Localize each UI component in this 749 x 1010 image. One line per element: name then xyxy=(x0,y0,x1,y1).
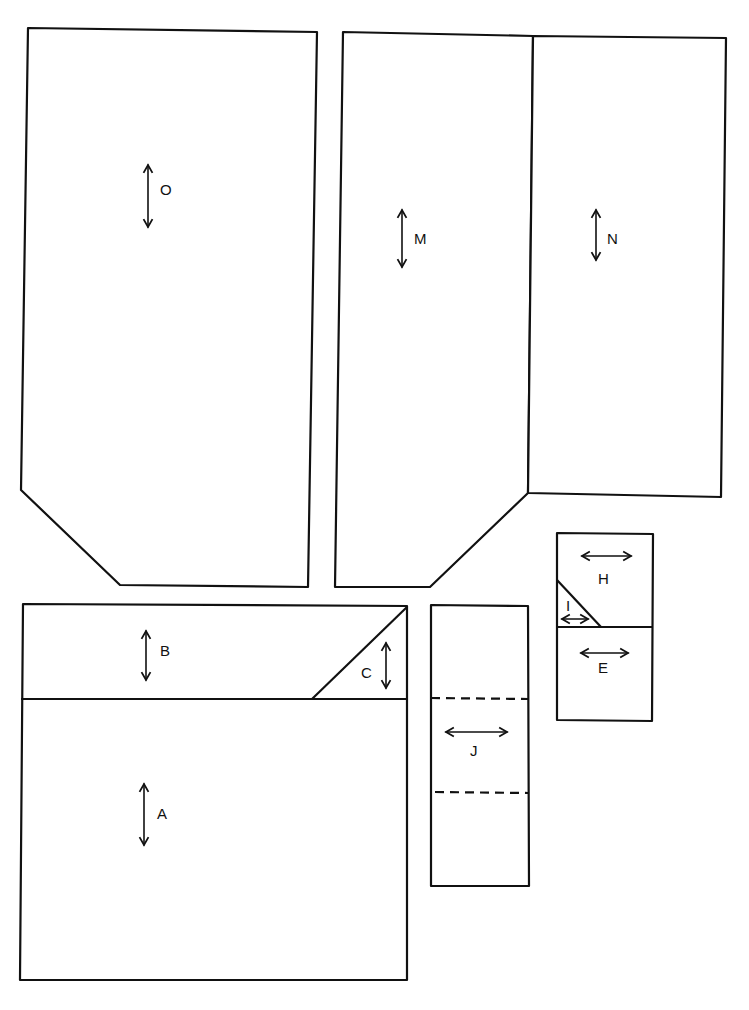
piece-i-label: I xyxy=(566,597,570,614)
piece-b-label: B xyxy=(160,642,170,659)
piece-n-label: N xyxy=(607,230,618,247)
piece-j: J xyxy=(431,605,529,886)
piece-j-label: J xyxy=(470,742,478,759)
piece-n-outline xyxy=(528,36,726,497)
pattern-diagram: O M N B C A J xyxy=(0,0,749,1010)
piece-m: M xyxy=(335,32,533,587)
piece-h-label: H xyxy=(598,570,609,587)
piece-o-outline xyxy=(21,28,317,587)
piece-j-outline xyxy=(431,605,529,886)
piece-m-label: M xyxy=(414,230,427,247)
piece-m-outline xyxy=(335,32,533,587)
piece-hie: H I E xyxy=(557,533,653,721)
piece-a-label: A xyxy=(157,805,167,822)
piece-e-label: E xyxy=(598,659,608,676)
piece-o-label: O xyxy=(160,181,172,198)
piece-o: O xyxy=(21,28,317,587)
piece-n: N xyxy=(528,36,726,497)
piece-abc: B C A xyxy=(20,604,407,980)
piece-c-label: C xyxy=(361,664,372,681)
piece-a-b-outline xyxy=(20,604,407,980)
